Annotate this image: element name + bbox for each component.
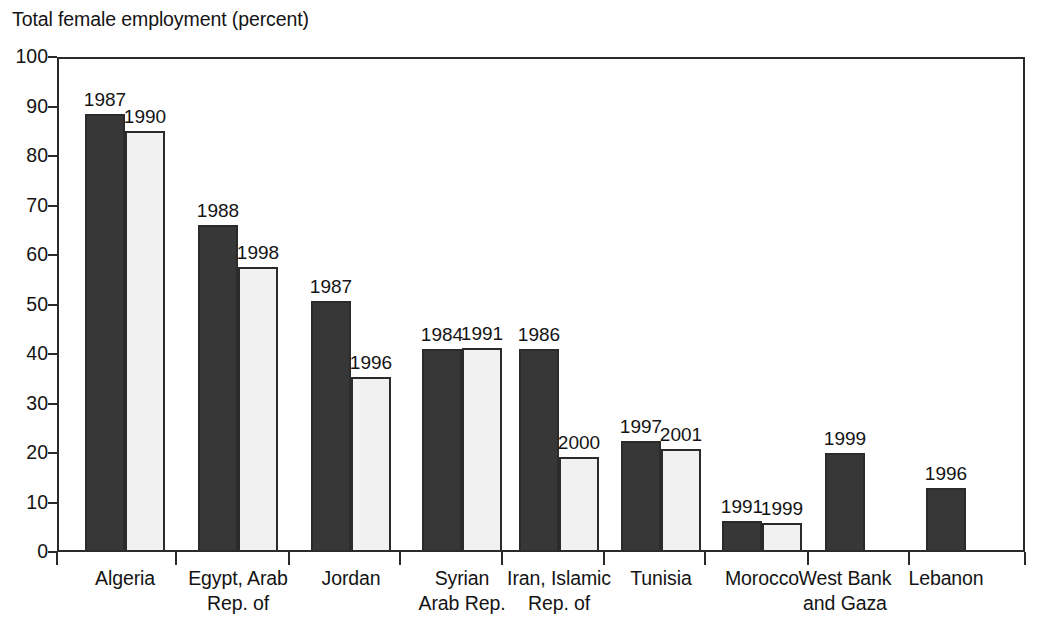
- bar-year-label: 1988: [183, 201, 253, 220]
- x-tick-mark: [175, 552, 177, 565]
- bar: [462, 348, 502, 552]
- x-tick-mark: [603, 552, 605, 565]
- x-tick-mark: [1024, 552, 1026, 565]
- bar-year-label: 2000: [544, 433, 614, 452]
- bar: [661, 449, 701, 552]
- bar: [125, 131, 165, 552]
- bar: [198, 225, 238, 552]
- bars-layer: 1987199019881998198719961984199119862000…: [0, 0, 1047, 639]
- x-tick-mark: [56, 552, 58, 565]
- bar-year-label: 1986: [504, 325, 574, 344]
- bar-year-label: 1996: [336, 353, 406, 372]
- bar-year-label: 1998: [223, 243, 293, 262]
- bar: [85, 114, 125, 552]
- bar-year-label: 1996: [911, 464, 981, 483]
- chart-container: Total female employment (percent) 010203…: [0, 0, 1047, 639]
- bar-year-label: 1990: [110, 107, 180, 126]
- x-tick-mark: [704, 552, 706, 565]
- x-axis-ticks: [0, 552, 1047, 566]
- x-category-label-line: and Gaza: [770, 591, 920, 616]
- bar-year-label: 1987: [296, 277, 366, 296]
- x-tick-mark: [908, 552, 910, 565]
- bar: [926, 488, 966, 552]
- x-category-label-line: Rep. of: [484, 591, 634, 616]
- bar-year-label: 1999: [747, 499, 817, 518]
- x-category-label-line: Rep. of: [163, 591, 313, 616]
- bar-year-label: 2001: [646, 425, 716, 444]
- bar: [238, 267, 278, 552]
- x-tick-mark: [399, 552, 401, 565]
- bar: [422, 349, 462, 552]
- bar: [559, 457, 599, 552]
- bar: [762, 523, 802, 552]
- bar: [311, 301, 351, 552]
- bar: [722, 521, 762, 552]
- x-axis-labels: AlgeriaEgypt, ArabRep. ofJordanSyrianAra…: [0, 566, 1047, 639]
- x-tick-mark: [807, 552, 809, 565]
- x-tick-mark: [501, 552, 503, 565]
- bar: [351, 377, 391, 552]
- x-category-label: Lebanon: [871, 566, 1021, 591]
- x-category-label-line: Lebanon: [871, 566, 1021, 591]
- bar: [621, 441, 661, 552]
- bar: [825, 453, 865, 552]
- x-tick-mark: [288, 552, 290, 565]
- bar-year-label: 1999: [810, 429, 880, 448]
